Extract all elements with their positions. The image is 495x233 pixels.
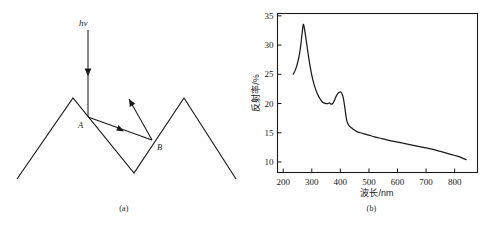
x-tick-label: 600: [391, 177, 405, 187]
x-tick-label: 800: [448, 177, 462, 187]
y-tick-label: 20: [265, 99, 275, 109]
x-tick-label: 500: [362, 177, 376, 187]
panel-a-diagram: hν A B (a): [0, 0, 248, 233]
reflectance-spectrum-chart: 200300400500600700800 101520253035 波长/nm…: [248, 0, 495, 200]
x-axis-ticks: [283, 169, 454, 173]
plot-frame: [278, 14, 478, 173]
sawtooth-surface: [17, 98, 236, 179]
light-trapping-diagram: hν A B: [0, 0, 248, 200]
x-tick-label: 700: [419, 177, 433, 187]
y-tick-label: 30: [265, 40, 275, 50]
x-axis-tick-labels: 200300400500600700800: [276, 177, 461, 187]
x-tick-label: 400: [334, 177, 348, 187]
point-b-label: B: [157, 142, 162, 152]
y-tick-label: 15: [265, 128, 275, 138]
incident-ray-arrow-icon: [85, 69, 92, 77]
x-axis-title: 波长/nm: [360, 187, 393, 198]
y-tick-label: 25: [265, 69, 275, 79]
y-axis-tick-labels: 101520253035: [265, 11, 275, 167]
point-a-label: A: [77, 120, 84, 130]
y-axis-ticks: [278, 16, 282, 162]
panel-b-caption: (b): [248, 204, 495, 213]
figure-root: hν A B (a) 200300400500600700800 1015202…: [0, 0, 495, 233]
reflectance-curve: [293, 24, 466, 159]
y-tick-label: 10: [265, 157, 275, 167]
y-axis-title: 反射率/%: [250, 74, 261, 112]
ray-a-to-b-arrow-icon: [116, 125, 124, 132]
panel-b-chart: 200300400500600700800 101520253035 波长/nm…: [248, 0, 495, 233]
x-tick-label: 300: [305, 177, 319, 187]
panel-a-caption: (a): [0, 204, 248, 213]
photon-energy-label: hν: [79, 18, 88, 28]
exit-ray-arrow-icon: [129, 99, 135, 107]
y-tick-label: 35: [265, 11, 275, 21]
x-tick-label: 200: [276, 177, 290, 187]
